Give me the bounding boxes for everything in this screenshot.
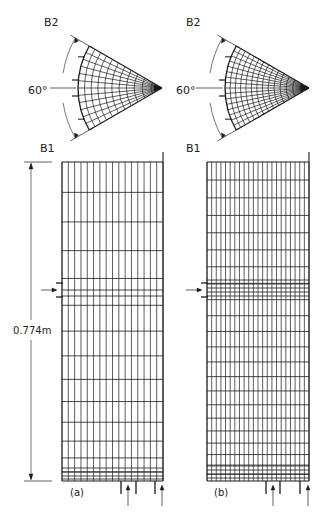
- mesh-diagram: [0, 0, 326, 524]
- fan-grid-a: [78, 46, 162, 130]
- angle-label-a: 60°: [28, 84, 48, 97]
- mesh-grid-a: [62, 152, 166, 481]
- b1-label-a: B1: [40, 142, 55, 155]
- angle-label-b: 60°: [176, 84, 196, 97]
- height-dimension-label: 0.774m: [13, 324, 51, 337]
- fan-grid-b: [225, 46, 309, 130]
- caption-a: (a): [70, 487, 84, 498]
- caption-b: (b): [214, 487, 228, 498]
- b2-label-b: B2: [186, 16, 201, 29]
- mesh-grid-b: [207, 152, 312, 481]
- b1-label-b: B1: [186, 142, 201, 155]
- b2-label-a: B2: [44, 16, 59, 29]
